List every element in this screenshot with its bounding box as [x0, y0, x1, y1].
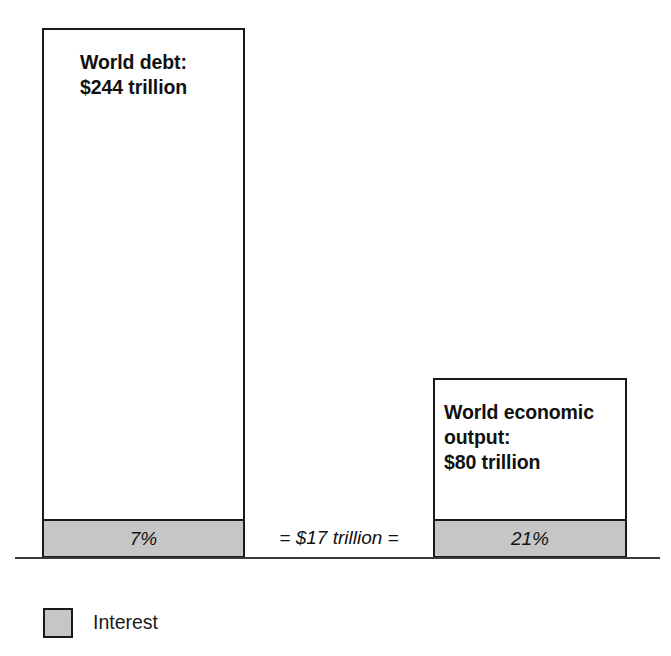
debt-vs-output-bar-chart: World debt: $244 trillion World economic… — [0, 0, 671, 656]
interest-percent-world-debt: 7% — [130, 529, 157, 548]
legend-swatch-interest — [43, 608, 73, 638]
bar-world-debt — [42, 28, 245, 558]
baseline-axis — [15, 557, 660, 559]
interest-segment-world-debt: 7% — [42, 519, 245, 558]
equivalence-annotation: = $17 trillion = — [248, 528, 430, 547]
interest-segment-world-economic-output: 21% — [433, 519, 627, 558]
interest-percent-world-economic-output: 21% — [511, 529, 549, 548]
bar-label-world-debt: World debt: $244 trillion — [80, 50, 240, 100]
legend-label-interest: Interest — [93, 613, 158, 633]
legend: Interest — [43, 608, 158, 638]
bar-label-world-economic-output: World economic output: $80 trillion — [444, 400, 624, 475]
